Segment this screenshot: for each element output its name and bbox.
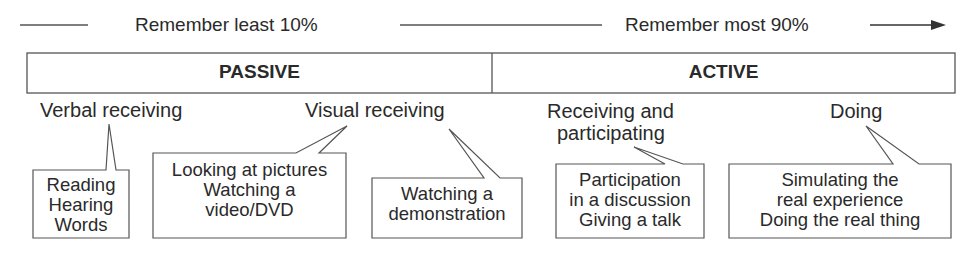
doing-label: Doing [830,100,882,122]
callout-verbal-text: Reading Hearing Words [33,175,129,235]
callout-visual-pictures-text: Looking at pictures Watching a video/DVD [153,160,346,220]
remember-most-label: Remember most 90% [625,14,809,36]
receiving-participating-label-line2: participating [557,122,665,144]
callout-line: Reading [33,175,129,195]
callout-line: Watching a [372,184,522,204]
callout-line: Giving a talk [556,210,704,230]
callout-line: Looking at pictures [153,160,346,180]
callout-line: video/DVD [153,200,346,220]
visual-receiving-label: Visual receiving [305,99,445,121]
callout-line: Hearing [33,195,129,215]
callout-line: demonstration [372,204,522,224]
callout-participating-text: Participation in a discussion Giving a t… [556,170,704,230]
callout-visual-demo-text: Watching a demonstration [372,184,522,224]
callout-line: Simulating the [729,170,951,190]
callout-line: in a discussion [556,190,704,210]
arrowhead-icon [931,20,946,30]
receiving-participating-label-line1: Receiving and [547,100,674,122]
callout-line: Doing the real thing [729,210,951,230]
callout-line: Watching a [153,180,346,200]
active-title: ACTIVE [492,61,955,83]
passive-title: PASSIVE [27,61,492,83]
callout-line: Words [33,215,129,235]
callout-doing-text: Simulating the real experience Doing the… [729,170,951,230]
callout-line: real experience [729,190,951,210]
verbal-receiving-label: Verbal receiving [40,99,182,121]
remember-least-label: Remember least 10% [135,14,318,36]
callout-line: Participation [556,170,704,190]
